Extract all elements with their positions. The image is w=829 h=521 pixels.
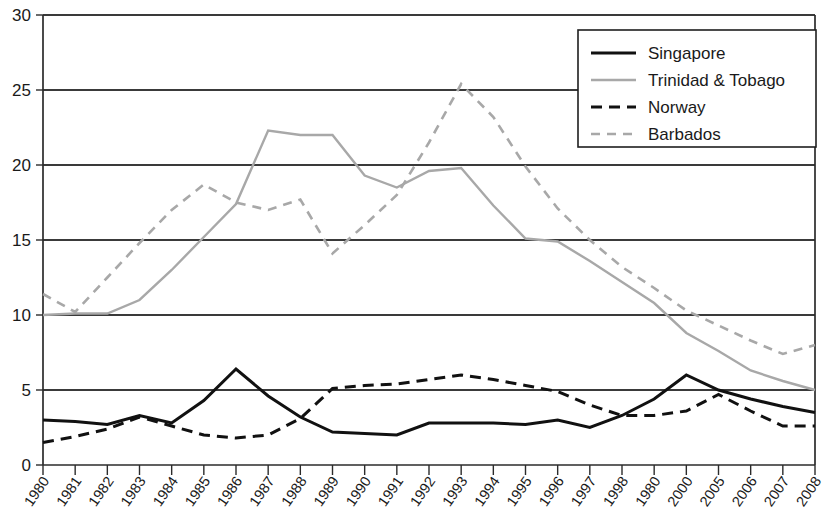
y-tick-label: 30 xyxy=(12,6,31,25)
x-tick-label: 1985 xyxy=(182,474,214,510)
x-tick-label: 1996 xyxy=(536,474,568,510)
series-line-trinidad-tobago xyxy=(43,131,815,391)
x-tick-label: 1984 xyxy=(150,474,182,510)
x-tick-label: 1983 xyxy=(117,474,149,510)
y-tick-label: 20 xyxy=(12,156,31,175)
x-tick-label: 1998 xyxy=(600,474,632,510)
x-tick-label: 2008 xyxy=(793,474,825,510)
x-tick-label: 1993 xyxy=(439,474,471,510)
legend-label-barbados: Barbados xyxy=(648,125,721,144)
series-line-norway xyxy=(43,375,815,443)
x-tick-label: 2006 xyxy=(729,474,761,510)
x-tick-label: 1986 xyxy=(214,474,246,510)
x-tick-label: 1981 xyxy=(53,474,85,510)
x-tick-label: 1992 xyxy=(407,474,439,510)
legend-label-trinidad-tobago: Trinidad & Tobago xyxy=(648,71,785,90)
x-tick-label: 1997 xyxy=(568,474,600,510)
x-tick-label: 2007 xyxy=(761,474,793,510)
x-axis-ticks-group xyxy=(43,465,815,475)
line-chart: 051015202530 198019811982198319841985198… xyxy=(0,0,829,521)
y-axis-ticks-group xyxy=(36,15,43,465)
y-tick-label: 5 xyxy=(22,381,31,400)
y-axis-labels-group: 051015202530 xyxy=(12,6,31,475)
x-tick-label: 1982 xyxy=(85,474,117,510)
x-tick-label: 1990 xyxy=(343,474,375,510)
x-tick-label: 1991 xyxy=(375,474,407,510)
x-tick-label: 1980 xyxy=(632,474,664,510)
y-tick-label: 0 xyxy=(22,456,31,475)
legend-label-norway: Norway xyxy=(648,98,706,117)
x-tick-label: 1989 xyxy=(310,474,342,510)
x-tick-label: 1994 xyxy=(471,474,503,510)
x-tick-label: 1988 xyxy=(278,474,310,510)
series-line-singapore xyxy=(43,369,815,435)
chart-legend: SingaporeTrinidad & TobagoNorwayBarbados xyxy=(578,30,816,147)
y-tick-label: 25 xyxy=(12,81,31,100)
x-tick-label: 1987 xyxy=(246,474,278,510)
y-tick-label: 15 xyxy=(12,231,31,250)
y-tick-label: 10 xyxy=(12,306,31,325)
x-tick-label: 1980 xyxy=(21,474,53,510)
legend-label-singapore: Singapore xyxy=(648,44,726,63)
x-axis-labels-group: 1980198119821983198419851986198719881989… xyxy=(21,474,825,510)
x-tick-label: 1995 xyxy=(503,474,535,510)
chart-canvas: 051015202530 198019811982198319841985198… xyxy=(0,0,829,521)
x-tick-label: 2005 xyxy=(696,474,728,510)
x-tick-label: 2000 xyxy=(664,474,696,510)
